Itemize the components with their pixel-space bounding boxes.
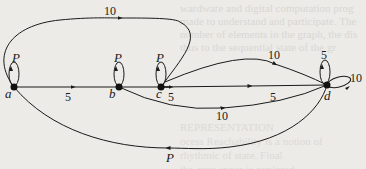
- edge-label-c-d-curve: 10: [268, 48, 280, 62]
- node-label-d: d: [324, 88, 331, 103]
- edge-label-b-c: 5: [168, 90, 174, 104]
- self-loop-d-up: [320, 60, 330, 84]
- edge-c-d-curve: [165, 59, 275, 82]
- node-label-a: a: [5, 86, 12, 101]
- node-b: [116, 84, 123, 91]
- edge-label-b-d-curve: 10: [216, 109, 228, 123]
- diagram-canvas: wardware and digital computation prog ma…: [0, 0, 366, 169]
- self-loop-b: [114, 62, 124, 86]
- edge-label-a-a: P: [11, 50, 20, 65]
- edge-label-b-b: P: [113, 50, 122, 65]
- node-label-c: c: [156, 86, 162, 101]
- edge-label-a-b: 5: [65, 90, 71, 104]
- edge-label-d-a-curve: P: [165, 150, 174, 165]
- edge-label-c-c: P: [155, 50, 164, 65]
- edge-label-c-d: 5: [270, 90, 276, 104]
- edge-a-c-curve: [4, 18, 120, 87]
- node-label-b: b: [109, 86, 116, 101]
- self-loop-a: [9, 62, 19, 86]
- edge-label-a-c-curve: 10: [104, 4, 116, 18]
- edge-label-d-d-10: 10: [350, 71, 362, 85]
- node-a: [11, 84, 18, 91]
- self-loop-c: [156, 62, 166, 86]
- state-graph: a b c d P P P 5 10 5 5 5 10 10 10 P: [0, 0, 366, 169]
- edge-c-d-straight: [161, 86, 250, 87]
- edge-label-d-d-5: 5: [321, 48, 327, 62]
